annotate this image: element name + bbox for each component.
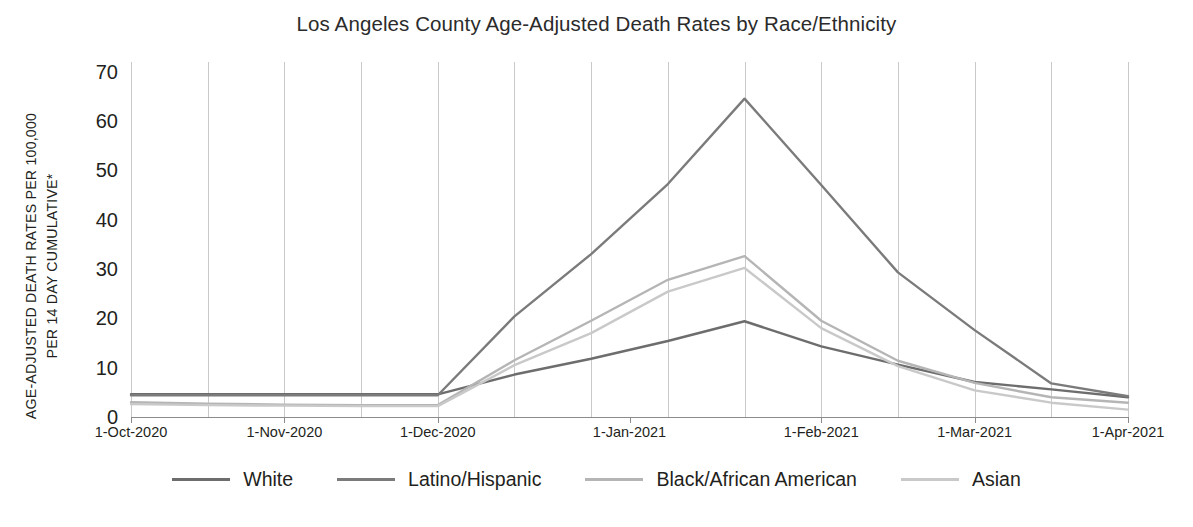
x-tick-label: 1-Nov-2020 bbox=[246, 424, 322, 440]
legend-label: Black/African American bbox=[656, 470, 857, 490]
x-tick-label: 1-Oct-2020 bbox=[95, 424, 168, 440]
gridline-vertical bbox=[514, 62, 515, 417]
x-tick-mark bbox=[630, 417, 631, 423]
x-tick-label: 1-Jan-2021 bbox=[593, 424, 666, 440]
gridline-vertical bbox=[208, 62, 209, 417]
y-tick-label: 20 bbox=[66, 308, 118, 328]
y-tick-label: 60 bbox=[66, 111, 118, 131]
legend-item[interactable]: White bbox=[172, 470, 293, 490]
gridline-vertical bbox=[1051, 62, 1052, 417]
x-tick-label: 1-Apr-2021 bbox=[1092, 424, 1165, 440]
x-tick-label: 1-Feb-2021 bbox=[784, 424, 859, 440]
x-tick-mark bbox=[975, 417, 976, 423]
gridline-vertical bbox=[1128, 62, 1129, 417]
legend-line-icon bbox=[585, 478, 643, 481]
x-tick-label: 1-Mar-2021 bbox=[937, 424, 1012, 440]
x-tick-mark bbox=[284, 417, 285, 423]
gridline-vertical bbox=[438, 62, 439, 417]
y-tick-label: 70 bbox=[66, 62, 118, 82]
y-tick-label: 30 bbox=[66, 259, 118, 279]
legend-item[interactable]: Black/African American bbox=[585, 470, 857, 490]
legend-label: Asian bbox=[972, 470, 1021, 490]
plot-area bbox=[131, 62, 1128, 417]
gridline-vertical bbox=[668, 62, 669, 417]
legend-item[interactable]: Latino/Hispanic bbox=[337, 470, 541, 490]
y-tick-label: 10 bbox=[66, 358, 118, 378]
legend-item[interactable]: Asian bbox=[901, 470, 1021, 490]
x-tick-mark bbox=[821, 417, 822, 423]
y-tick-label: 50 bbox=[66, 160, 118, 180]
page-title: Los Angeles County Age-Adjusted Death Ra… bbox=[0, 12, 1193, 36]
legend-label: White bbox=[243, 470, 293, 490]
gridline-vertical bbox=[975, 62, 976, 417]
chart-legend: WhiteLatino/HispanicBlack/African Americ… bbox=[0, 470, 1193, 490]
gridline-vertical bbox=[745, 62, 746, 417]
x-tick-mark bbox=[1128, 417, 1129, 423]
gridline-vertical bbox=[361, 62, 362, 417]
y-axis-tick-labels: 010203040506070 bbox=[0, 0, 131, 527]
chart-container: Los Angeles County Age-Adjusted Death Ra… bbox=[0, 0, 1193, 527]
gridline-vertical bbox=[284, 62, 285, 417]
y-tick-label: 40 bbox=[66, 210, 118, 230]
gridline-vertical bbox=[591, 62, 592, 417]
legend-label: Latino/Hispanic bbox=[408, 470, 541, 490]
x-tick-mark bbox=[131, 417, 132, 423]
legend-line-icon bbox=[901, 478, 959, 481]
legend-line-icon bbox=[172, 478, 230, 481]
gridline-vertical bbox=[821, 62, 822, 417]
x-tick-mark bbox=[438, 417, 439, 423]
gridline-vertical bbox=[131, 62, 132, 417]
x-tick-label: 1-Dec-2020 bbox=[400, 424, 476, 440]
gridline-vertical bbox=[898, 62, 899, 417]
legend-line-icon bbox=[337, 478, 395, 481]
